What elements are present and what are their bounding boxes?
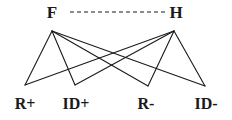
node-label-rminus: R- <box>138 96 155 112</box>
node-label-f: F <box>47 4 57 21</box>
edge-H-to-ID+ <box>75 31 174 85</box>
edge-H-to-ID- <box>174 31 205 86</box>
edge-F-to-ID+ <box>52 31 75 85</box>
edge-F-to-ID- <box>52 31 205 86</box>
node-label-idplus: ID+ <box>63 96 90 112</box>
node-label-h: H <box>169 4 182 21</box>
diagram-canvas: FH R+ID+R-ID- <box>0 0 232 120</box>
edge-F-to-R- <box>52 31 148 86</box>
node-label-rplus: R+ <box>15 96 36 112</box>
node-label-idminus: ID- <box>194 96 217 112</box>
solid-edge-group <box>25 31 205 86</box>
